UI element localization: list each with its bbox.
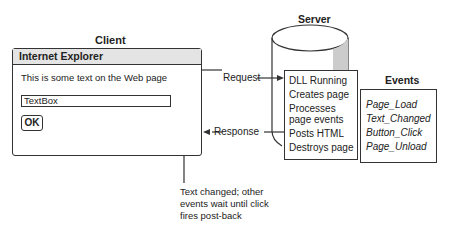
step-item: Posts HTML: [289, 128, 344, 140]
event-item: Page_Load: [361, 98, 436, 112]
textbox-input[interactable]: TextBox: [21, 95, 171, 107]
events-label: Events: [385, 74, 419, 86]
step-item: DLL Running: [289, 75, 347, 87]
annotation-line-1: Text changed; other: [180, 186, 269, 198]
response-label: Response: [214, 126, 259, 138]
server-steps-box: DLL Running Creates page Processes page …: [284, 70, 358, 160]
server-label: Server: [298, 13, 331, 25]
client-label: Client: [95, 34, 126, 46]
event-item: Page_Unload: [361, 140, 436, 154]
annotation-line-2: events wait until click: [180, 198, 269, 210]
annotation-text: Text changed; other events wait until cl…: [180, 186, 269, 222]
event-item: Text_Changed: [361, 112, 436, 126]
ok-button[interactable]: OK: [21, 115, 43, 131]
event-item: Button_Click: [361, 126, 436, 140]
step-item: Creates page: [289, 89, 349, 101]
events-box: Page_Load Text_Changed Button_Click Page…: [360, 89, 437, 163]
step-item: Processes page events: [289, 103, 357, 125]
page-text: This is some text on the Web page: [21, 72, 167, 84]
annotation-line-3: fires post-back: [180, 210, 269, 222]
browser-titlebar: Internet Explorer: [13, 49, 201, 65]
step-item: Destroys page: [289, 142, 353, 154]
request-label: Request: [223, 72, 260, 84]
browser-window: Internet Explorer This is some text on t…: [12, 48, 202, 156]
